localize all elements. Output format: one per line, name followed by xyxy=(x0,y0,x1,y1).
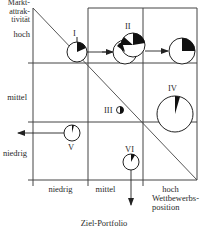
unit-label-iii: III xyxy=(104,106,113,115)
diagonal-line xyxy=(33,8,197,180)
unit-v xyxy=(18,125,80,141)
y-level-niedrig: niedrig xyxy=(0,149,27,158)
unit-label-i: I xyxy=(73,29,76,38)
unit-label-ii: II xyxy=(125,22,131,31)
unit-iv xyxy=(157,96,193,132)
unit-ii xyxy=(102,33,168,64)
x-axis-label-line-2: position xyxy=(152,203,199,212)
unit-i xyxy=(67,37,113,62)
x-level-niedrig: niedrig xyxy=(33,185,88,194)
unit-vi xyxy=(123,154,139,205)
y-level-hoch: hoch xyxy=(0,30,30,39)
unit-label-v: V xyxy=(68,143,74,152)
unit-ii-target-sector xyxy=(182,38,195,51)
unit-label-iv: IV xyxy=(168,84,177,93)
y-axis-label-line-3: tivität xyxy=(0,16,30,25)
y-level-mittel: mittel xyxy=(0,93,27,102)
diagram-title: Ziel-Portfolio xyxy=(0,219,208,228)
x-level-mittel: mittel xyxy=(88,185,123,194)
x-axis-label: Wettbewerbs- position xyxy=(152,194,199,212)
unit-label-vi: VI xyxy=(125,145,134,154)
y-axis-label: Markt- attrak- tivität xyxy=(0,0,30,25)
unit-iii xyxy=(117,107,124,114)
unit-ii-target xyxy=(169,38,195,64)
